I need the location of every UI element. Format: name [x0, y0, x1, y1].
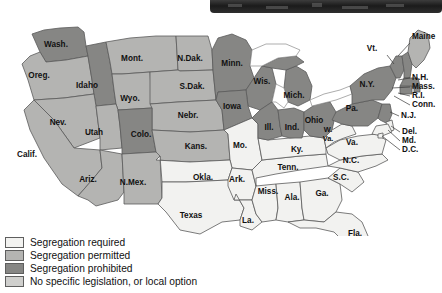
us-map-svg: Wash. Oreg. Idaho Mont. Wyo. N.Dak. S.Da…	[0, 8, 442, 236]
label-mont: Mont.	[121, 54, 143, 63]
label-colo: Colo.	[131, 130, 151, 139]
label-nmex: N.Mex.	[120, 178, 146, 187]
label-wyo: Wyo.	[120, 94, 139, 103]
label-ky: Ky.	[291, 145, 303, 154]
label-wva-va: Va.	[323, 134, 334, 143]
label-nebr: Nebr.	[178, 111, 198, 120]
label-wash: Wash.	[44, 40, 68, 49]
map-legend: Segregation required Segregation permitt…	[5, 236, 245, 288]
label-ark: Ark.	[229, 175, 245, 184]
label-mo: Mo.	[233, 141, 247, 150]
legend-swatch-none	[5, 276, 24, 287]
state-ala	[276, 182, 304, 222]
us-map: Wash. Oreg. Idaho Mont. Wyo. N.Dak. S.Da…	[0, 8, 442, 236]
label-ind: Ind.	[285, 123, 300, 132]
label-miss: Miss.	[258, 187, 278, 196]
segregation-map-figure: Wash. Oreg. Idaho Mont. Wyo. N.Dak. S.Da…	[0, 0, 442, 293]
legend-swatch-prohibited	[5, 263, 24, 274]
legend-swatch-required	[5, 237, 24, 248]
label-la: La.	[242, 216, 254, 225]
state-dc	[378, 133, 383, 138]
label-wis: Wis.	[254, 77, 271, 86]
label-nh: N.H.	[412, 73, 428, 82]
legend-label-permitted: Segregation permitted	[30, 250, 130, 261]
label-utah: Utah	[85, 128, 103, 137]
label-conn: Conn.	[412, 100, 435, 109]
label-ndak: N.Dak.	[177, 54, 202, 63]
label-nc: N.C.	[343, 156, 359, 165]
label-ohio: Ohio	[305, 116, 324, 125]
label-calif: Calif.	[17, 150, 37, 159]
label-ny: N.Y.	[359, 80, 374, 89]
legend-label-required: Segregation required	[30, 237, 125, 248]
label-dc: D.C.	[402, 145, 418, 154]
label-texas: Texas	[180, 211, 203, 220]
label-kans: Kans.	[185, 142, 207, 151]
label-ill: Ill.	[264, 123, 273, 132]
label-mass: Mass.	[412, 82, 435, 91]
label-nev: Nev.	[50, 118, 67, 127]
label-nj: N.J.	[401, 111, 416, 120]
label-ri: R.I.	[412, 91, 425, 100]
label-pa: Pa.	[346, 104, 358, 113]
label-minn: Minn.	[221, 59, 242, 68]
legend-item-permitted: Segregation permitted	[5, 249, 245, 262]
label-md: Md.	[402, 136, 416, 145]
label-vt: Vt.	[367, 44, 377, 53]
label-ala: Ala.	[284, 193, 299, 202]
label-tenn: Tenn.	[277, 163, 298, 172]
legend-swatch-permitted	[5, 250, 24, 261]
legend-label-prohibited: Segregation prohibited	[30, 263, 133, 274]
label-idaho: Idaho	[76, 81, 98, 90]
label-iowa: Iowa	[223, 102, 242, 111]
legend-item-none: No specific legislation, or local option	[5, 275, 245, 288]
label-sc: S.C.	[333, 173, 349, 182]
label-del: Del.	[402, 127, 417, 136]
label-ariz: Ariz.	[79, 175, 97, 184]
legend-item-required: Segregation required	[5, 236, 245, 249]
label-mich: Mich.	[284, 91, 305, 100]
label-wva-w: W.	[324, 125, 333, 134]
state-ark	[228, 168, 256, 200]
label-fla: Fla.	[348, 229, 362, 236]
legend-item-prohibited: Segregation prohibited	[5, 262, 245, 275]
label-okla: Okla.	[193, 173, 213, 182]
legend-label-none: No specific legislation, or local option	[30, 276, 197, 287]
label-sdak: S.Dak.	[179, 82, 204, 91]
label-ga: Ga.	[315, 189, 328, 198]
label-oreg: Oreg.	[28, 71, 49, 80]
state-mich	[284, 66, 312, 106]
label-va: Va.	[346, 138, 358, 147]
label-maine: Maine	[412, 32, 436, 41]
state-wyo	[112, 72, 152, 110]
